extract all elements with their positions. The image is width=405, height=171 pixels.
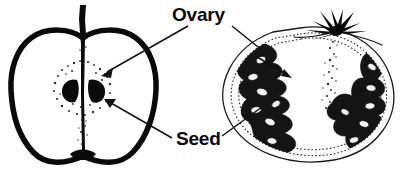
label-seed: Seed [176, 128, 221, 149]
tomato-cross-section [223, 9, 394, 162]
diagram-canvas: Ovary Seed [0, 0, 405, 171]
fruit-diagram-figure: Ovary Seed [0, 0, 405, 171]
label-ovary: Ovary [172, 4, 226, 25]
apple-cross-section [11, 5, 156, 162]
